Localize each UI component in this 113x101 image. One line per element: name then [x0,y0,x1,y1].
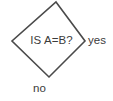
branch-label-yes: yes [88,35,106,47]
flowchart-decision-node: IS A=B? yes no [0,0,113,101]
branch-label-no: no [0,83,96,95]
